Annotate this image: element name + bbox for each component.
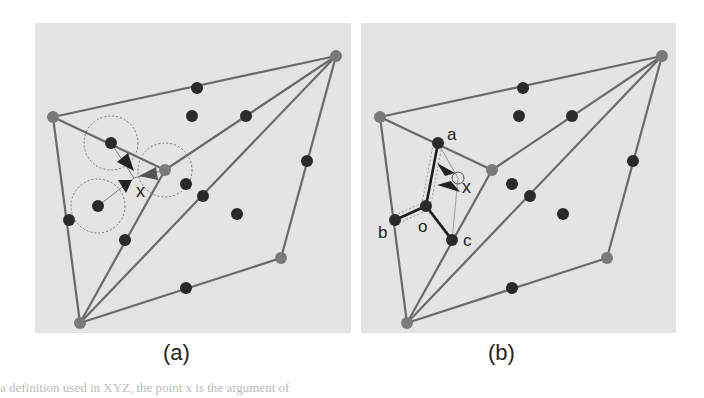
sample-point bbox=[301, 155, 313, 167]
sample-point bbox=[180, 178, 192, 190]
sample-point bbox=[627, 155, 639, 167]
sample-point bbox=[197, 190, 209, 202]
mesh-vertex bbox=[374, 111, 386, 123]
query-point-x-label: x bbox=[462, 177, 471, 197]
query-point-x-label: x bbox=[136, 181, 145, 201]
sample-point bbox=[191, 82, 203, 94]
mesh-vertex bbox=[486, 164, 498, 176]
sample-point bbox=[180, 282, 192, 294]
point-a bbox=[432, 137, 444, 149]
point-o bbox=[420, 200, 432, 212]
cut-off-body-text: a definition used in XYZ, the point x is… bbox=[0, 380, 704, 396]
sample-point bbox=[506, 282, 518, 294]
point-label-a: a bbox=[447, 125, 457, 144]
mesh-vertex bbox=[401, 317, 413, 329]
mesh-vertex bbox=[159, 164, 171, 176]
point-label-c: c bbox=[463, 231, 472, 250]
panel-b: aobcx bbox=[361, 23, 676, 333]
sample-point bbox=[92, 200, 104, 212]
caption-b: (b) bbox=[488, 340, 515, 366]
caption-a: (a) bbox=[163, 340, 190, 366]
sample-point bbox=[63, 214, 75, 226]
sample-point bbox=[513, 110, 525, 122]
sample-point bbox=[557, 208, 569, 220]
point-label-b: b bbox=[378, 223, 387, 242]
point-label-o: o bbox=[418, 217, 427, 236]
point-c bbox=[446, 234, 458, 246]
sample-point bbox=[186, 110, 198, 122]
sample-point bbox=[119, 234, 131, 246]
sample-point bbox=[524, 190, 536, 202]
mesh-vertex bbox=[74, 317, 86, 329]
sample-point bbox=[506, 178, 518, 190]
mesh-vertex bbox=[656, 50, 668, 62]
sample-point bbox=[105, 137, 117, 149]
point-b bbox=[389, 214, 401, 226]
mesh-vertex bbox=[601, 252, 613, 264]
sample-point bbox=[566, 110, 578, 122]
mesh-vertex bbox=[330, 50, 342, 62]
sample-point bbox=[231, 208, 243, 220]
diagram-canvas: xaobcx bbox=[0, 0, 704, 398]
sample-point bbox=[240, 110, 252, 122]
mesh-vertex bbox=[275, 252, 287, 264]
sample-point bbox=[517, 82, 529, 94]
mesh-vertex bbox=[47, 111, 59, 123]
panel-a: x bbox=[35, 23, 351, 333]
